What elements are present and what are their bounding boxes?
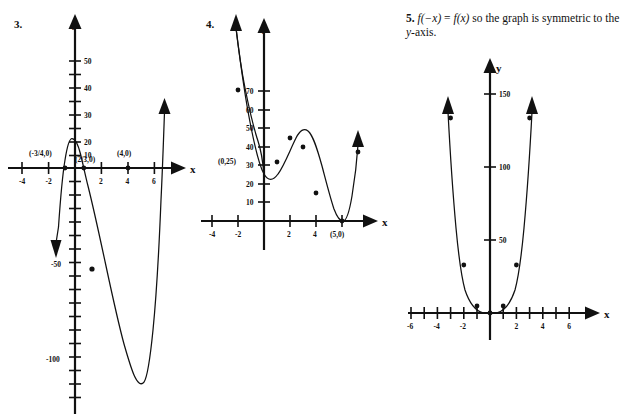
- graph-3-point-root-c: [126, 166, 131, 171]
- graph-3-ytick-30: 30: [84, 111, 92, 120]
- graph-5-xtick--4: -4: [433, 322, 439, 331]
- graph-5-point--1: [475, 304, 480, 309]
- graph-3-label-four: (4,0): [117, 149, 132, 158]
- graph-4-marked-points: [236, 88, 361, 224]
- graph-4-ytick-20: 20: [246, 180, 254, 189]
- graph-4-y-axis: 70 60 50 40 30 20 10 y: [246, 18, 271, 250]
- graph-4-point-2: [288, 136, 293, 141]
- graph-4-ytick-30: 30: [246, 161, 254, 170]
- graph-4-point-3: [301, 145, 306, 150]
- graph-4-point-6: [356, 150, 361, 155]
- graph-3-ytick-50: 50: [84, 57, 92, 66]
- graph-3-y-axis-label: y: [72, 18, 78, 30]
- graph-3-xtick-4: 4: [126, 177, 130, 186]
- graph-5-xtick-2: 2: [514, 322, 518, 331]
- graph-5-point--3: [448, 116, 453, 121]
- graph-4-xtick-2: 2: [287, 230, 291, 239]
- graph-5-point-1: [501, 304, 506, 309]
- graph-4-point-5-root: [340, 219, 345, 224]
- graph-5-ytick-100: 100: [499, 163, 511, 172]
- graph-5-xtick-4: 4: [541, 322, 545, 331]
- graph-4-ytick-10: 10: [246, 198, 254, 207]
- graph-4-label-y-intercept: (0,25): [218, 157, 237, 166]
- graph-4-x-axis: -4 -2 2 4 x: [201, 215, 388, 240]
- graph-3-x-axis: -4 -2 2 4 6 x: [8, 162, 196, 187]
- graph-3-xtick-2: 2: [99, 177, 103, 186]
- graph-4-curve: [230, 14, 364, 221]
- graph-4-point-4: [314, 191, 319, 196]
- graph-3-ytick-40: 40: [84, 84, 92, 93]
- graph-5-xtick--2: -2: [460, 322, 466, 331]
- graph-3-point-interior: [89, 266, 94, 271]
- graph-3-point-labels: (-3/4,0) (2/3,0) (4,0): [29, 149, 132, 164]
- graph-4-label-root-five: (5,0): [330, 230, 345, 239]
- graph-3-curve: [51, 98, 171, 384]
- graph-5-ytick-150: 150: [499, 90, 511, 99]
- graph-5-point--2: [461, 263, 466, 268]
- graph-3-ytick-20: 20: [84, 138, 92, 147]
- graph-3-xtick--2: -2: [46, 177, 52, 186]
- graph-4-ytick-70: 70: [246, 87, 254, 96]
- graph-3-xtick-6: 6: [152, 177, 156, 186]
- graph-5-xtick-6: 6: [567, 322, 571, 331]
- graph-5-xtick--6: -6: [407, 322, 413, 331]
- graph-3-ytick--50: -50: [51, 260, 61, 269]
- graph-4-ytick-40: 40: [246, 143, 254, 152]
- problem-5-panel: 5. f(−x) = f(x) so the graph is symmetri…: [396, 0, 628, 418]
- graph-3-xtick--4: -4: [19, 177, 25, 186]
- graph-3-point-root-a: [63, 166, 68, 171]
- graph-4-svg: -4 -2 2 4 x 70 60 50 40 30 20 10 y: [196, 0, 396, 418]
- graph-3-y-axis: 50 40 30 20 10 -50 -100 y: [46, 14, 92, 414]
- graph-5-y-axis: 150 100 50 y: [484, 58, 511, 340]
- graph-5-y-axis-label: y: [496, 62, 502, 74]
- graph-5-ytick-50: 50: [499, 236, 507, 245]
- graph-4-point-1: [275, 160, 280, 165]
- graph-4-xtick--4: -4: [209, 230, 215, 239]
- problem-3-panel: 3. -4 -2 2 4 6 x: [0, 0, 196, 418]
- graph-5-x-axis: -6 -4 -2 2 4 6 x: [407, 307, 610, 332]
- graph-3-label-two-thirds: (2/3,0): [75, 155, 96, 164]
- graph-5-x-axis-label: x: [604, 308, 610, 320]
- problem-4-panel: 4. -4 -2 2 4 x 70 60: [196, 0, 396, 418]
- graph-3-label-neg-three-quarters: (-3/4,0): [29, 149, 52, 158]
- graph-4-point-neg2: [236, 88, 241, 93]
- graph-3-ytick--100: -100: [46, 355, 60, 364]
- graph-4-xtick-4: 4: [313, 230, 317, 239]
- graph-4-y-axis-label: y: [262, 22, 268, 34]
- graph-3-svg: -4 -2 2 4 6 x: [0, 0, 196, 418]
- graph-4-xtick--2: -2: [235, 230, 241, 239]
- graph-5-point-2: [514, 263, 519, 268]
- graph-4-x-axis-label: x: [382, 216, 388, 228]
- graph-5-point-0: [488, 311, 493, 316]
- graph-3-point-root-b: [81, 166, 86, 171]
- graph-5-point-3: [527, 116, 532, 121]
- graph-4-ytick-50: 50: [246, 124, 254, 133]
- graph-5-svg: -6 -4 -2 2 4 6 x 150 100 50 y: [396, 0, 628, 418]
